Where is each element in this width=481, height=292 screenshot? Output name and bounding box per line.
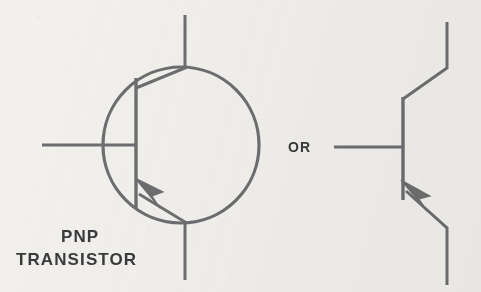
emitter-arrowhead-left <box>135 178 163 208</box>
emitter-arrowhead-right <box>401 180 430 211</box>
device-label-line1: PNP <box>61 227 99 246</box>
emitter-lead-left <box>139 194 185 280</box>
device-label-line2: TRANSISTOR <box>16 250 137 269</box>
collector-lead-right <box>403 22 447 99</box>
alternative-label: OR <box>288 139 311 155</box>
schematic-drawing: PNP TRANSISTOR OR <box>0 0 481 292</box>
symbol-pnp-plain <box>334 22 447 285</box>
emitter-lead-right <box>406 191 447 285</box>
pnp-transistor-figure: PNP TRANSISTOR OR <box>0 0 481 292</box>
